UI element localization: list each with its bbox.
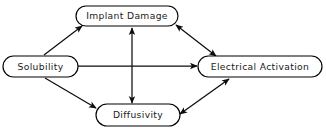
node-diffusivity[interactable]: Diffusivity [96,104,180,126]
node-electrical-activation-label: Electrical Activation [211,61,310,72]
edge-solubility-to-diffusivity [45,78,96,108]
node-solubility-label: Solubility [18,61,64,72]
diagram-svg: Implant Damage Solubility Electrical Act… [0,0,326,132]
diagram-canvas: Implant Damage Solubility Electrical Act… [0,0,326,132]
node-electrical-activation[interactable]: Electrical Activation [198,56,322,77]
node-diffusivity-label: Diffusivity [113,109,163,120]
node-implant-damage-label: Implant Damage [86,10,168,21]
edge-solubility-to-implant-damage [44,26,82,55]
node-implant-damage[interactable]: Implant Damage [76,6,178,26]
node-solubility[interactable]: Solubility [3,56,78,77]
edge-implant-damage-to-electrical-activation [176,25,216,56]
edge-diffusivity-to-electrical-activation [180,79,229,114]
